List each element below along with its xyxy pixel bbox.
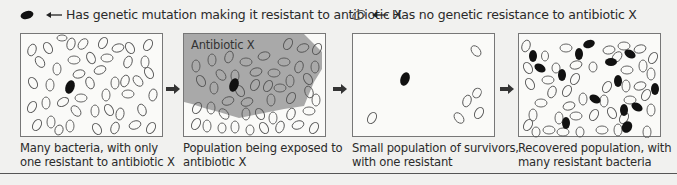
arrow-left-icon bbox=[372, 9, 388, 21]
caption-line: with one resistant bbox=[352, 155, 519, 169]
caption-initial-population: Many bacteria, with only one resistant t… bbox=[20, 141, 175, 169]
caption-antibiotic-exposure: Population being exposed to antibiotic X bbox=[183, 141, 342, 169]
filled-ellipse-icon bbox=[20, 9, 42, 21]
panel-initial-population bbox=[20, 33, 163, 137]
caption-line: antibiotic X bbox=[183, 155, 342, 169]
panel-survivors bbox=[352, 33, 495, 137]
legend-non-resistant-label: Has no genetic resistance to antibiotic … bbox=[392, 7, 637, 22]
legend-resistant: Has genetic mutation making it resistant… bbox=[20, 7, 402, 22]
survivors-illustration bbox=[353, 34, 496, 138]
caption-line: Recovered population, with bbox=[518, 141, 671, 155]
arrow-right-icon bbox=[500, 79, 514, 98]
arrow-right-icon bbox=[333, 79, 347, 98]
resistant-bacterium bbox=[398, 71, 411, 87]
panel-antibiotic-exposure: Antibiotic X bbox=[183, 33, 326, 137]
caption-survivors: Small population of survivors, with one … bbox=[352, 141, 519, 169]
caption-line: many resistant bacteria bbox=[518, 155, 671, 169]
caption-line: Population being exposed to bbox=[183, 141, 342, 155]
caption-line: Many bacteria, with only bbox=[20, 141, 175, 155]
arrow-right-icon bbox=[166, 79, 180, 98]
divider-rule bbox=[0, 173, 677, 174]
arrow-left-icon bbox=[46, 9, 62, 21]
caption-line: one resistant to antibiotic X bbox=[20, 155, 175, 169]
caption-line: Small population of survivors, bbox=[352, 141, 519, 155]
antibiotic-label: Antibiotic X bbox=[191, 38, 255, 52]
resistant-bacterium bbox=[63, 79, 76, 95]
recovered-population-illustration bbox=[519, 34, 662, 138]
hollow-ellipse-icon bbox=[352, 9, 368, 21]
caption-recovered-population: Recovered population, with many resistan… bbox=[518, 141, 671, 169]
bacteria-population-illustration bbox=[21, 34, 164, 138]
legend-non-resistant: Has no genetic resistance to antibiotic … bbox=[352, 7, 637, 22]
panel-recovered-population bbox=[518, 33, 661, 137]
